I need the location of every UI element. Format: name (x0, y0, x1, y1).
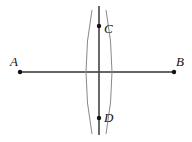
point-a (18, 70, 22, 74)
label-a: A (9, 54, 18, 69)
label-c: C (104, 21, 113, 36)
point-d (97, 116, 101, 120)
point-c (97, 24, 101, 28)
perpendicular-bisector-diagram: A B C D (0, 0, 192, 142)
label-b: B (176, 54, 184, 69)
label-d: D (103, 110, 114, 125)
point-b (172, 70, 176, 74)
